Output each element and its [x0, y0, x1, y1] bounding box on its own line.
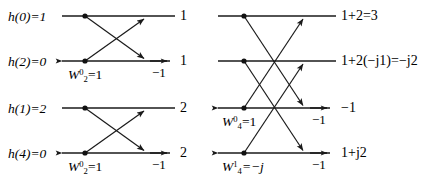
stage1-output-row3: 2: [180, 101, 187, 115]
node-row2-stage2: [241, 58, 246, 63]
stage1-negative-row2: −1: [152, 66, 166, 79]
stage1-output-row1: 1: [180, 9, 187, 23]
twiddle-symbol-w: W: [68, 159, 79, 174]
stage1-output-row2: 1: [180, 54, 187, 68]
stage2-negative-row3: −1: [312, 113, 326, 126]
stage1-cross-branches: [85, 16, 144, 153]
cross-row4-to-row3: [85, 111, 144, 153]
cross-row3-to-row1: [244, 19, 303, 108]
cross-row1-to-row3: [244, 16, 303, 106]
fft-butterfly-figure: h(0)=1 h(2)=0 h(1)=2 h(4)=0 1 1 2 2 −1 −…: [0, 0, 445, 185]
twiddle-symbol-w: W: [222, 159, 233, 174]
signal-flow-wires: [0, 0, 445, 185]
stage2-nodes: [241, 13, 246, 155]
stage1-negative-row4: −1: [152, 158, 166, 171]
stage2-output-row2: 1+2(−j1)=−j2: [341, 54, 418, 68]
input-label-h4: h(4)=0: [8, 147, 46, 161]
cross-row2-to-row4: [244, 61, 303, 151]
twiddle-value: =1: [242, 114, 256, 129]
input-label-h0: h(0)=1: [8, 10, 46, 24]
input-label-h1: h(1)=2: [8, 102, 46, 116]
stage2-output-row3: −1: [341, 101, 356, 115]
node-row4-stage2: [241, 150, 246, 155]
cross-row2-to-row1: [85, 19, 144, 61]
stage2-negative-row4: −1: [312, 158, 326, 171]
stage1-twiddle-row2: W02=1: [68, 68, 102, 84]
node-row2-stage1: [82, 58, 87, 63]
node-row4-stage1: [82, 150, 87, 155]
stage2-output-row4: 1+j2: [341, 146, 367, 160]
node-row1-stage2: [241, 13, 246, 18]
twiddle-symbol-w: W: [68, 67, 79, 82]
twiddle-value: =−j: [242, 159, 264, 174]
cross-row4-to-row2: [244, 64, 303, 153]
twiddle-value: =1: [88, 159, 102, 174]
stage1-nodes: [82, 13, 87, 155]
stage2-twiddle-row3: W04=1: [222, 115, 256, 131]
stage1-twiddle-row4: W02=1: [68, 160, 102, 176]
cross-row1-to-row2: [85, 16, 144, 59]
stage2-twiddle-row4: W14=−j: [222, 160, 264, 176]
stage1-horizontal-lines: [62, 16, 175, 153]
node-row1-stage1: [82, 13, 87, 18]
stage1-output-row4: 2: [180, 146, 187, 160]
stage2-horizontal-lines: [218, 16, 336, 153]
twiddle-symbol-w: W: [222, 114, 233, 129]
stage2-cross-branches: [244, 16, 303, 153]
node-row3-stage2: [241, 105, 246, 110]
node-row3-stage1: [82, 105, 87, 110]
cross-row3-to-row4: [85, 108, 144, 151]
twiddle-value: =1: [88, 67, 102, 82]
stage2-output-row1: 1+2=3: [341, 9, 378, 23]
input-label-h2: h(2)=0: [8, 55, 46, 69]
